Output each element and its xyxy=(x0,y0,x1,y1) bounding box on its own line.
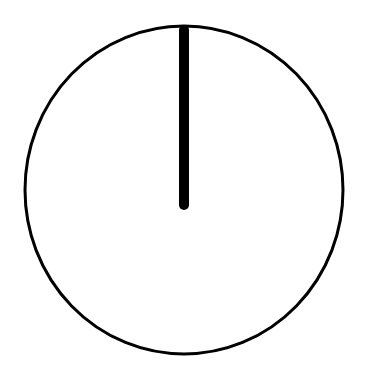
clock-svg xyxy=(0,0,367,377)
clock-diagram: Circle with a single vertical hand from … xyxy=(0,0,367,377)
